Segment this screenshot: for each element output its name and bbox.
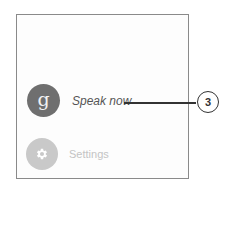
callout-line: [124, 102, 196, 104]
google-g-glyph: g: [37, 90, 49, 109]
speak-now-label: Speak now: [72, 94, 131, 108]
google-g-icon: g: [27, 84, 60, 117]
gear-icon: [26, 138, 58, 170]
settings-label: Settings: [69, 148, 109, 160]
gear-icon-glyph: [35, 147, 49, 161]
callout-badge: 3: [197, 91, 219, 113]
callout-number: 3: [205, 96, 211, 108]
settings-item[interactable]: Settings: [26, 138, 109, 170]
speak-now-item[interactable]: g Speak now: [27, 84, 131, 117]
